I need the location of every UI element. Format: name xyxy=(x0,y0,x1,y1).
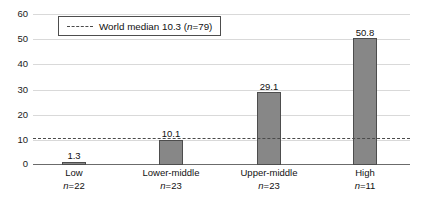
ytick-label-30: 30 xyxy=(17,85,28,95)
category-sample-size: n=11 xyxy=(355,180,376,193)
ytick-label-20: 20 xyxy=(17,110,28,120)
category-name: Lower-middle xyxy=(142,167,199,180)
category-label-low: Low n=22 xyxy=(63,167,84,193)
plot-area: 60 50 40 30 20 10 0 1.3 10.1 29.1 xyxy=(33,14,410,165)
bar-value-upper-middle: 29.1 xyxy=(260,82,279,92)
category-label-high: High n=11 xyxy=(355,167,376,193)
bar-lower-middle: 10.1 xyxy=(159,140,183,165)
legend-label: World median 10.3 (n=79) xyxy=(99,21,212,32)
bar-value-high: 50.8 xyxy=(356,28,375,38)
category-name: High xyxy=(355,167,376,180)
bar-chart: 60 50 40 30 20 10 0 1.3 10.1 29.1 xyxy=(0,0,421,201)
ytick-label-40: 40 xyxy=(17,60,28,70)
ytick-label-10: 10 xyxy=(17,135,28,145)
ytick-label-60: 60 xyxy=(17,9,28,19)
category-sample-size: n=23 xyxy=(142,180,199,193)
bar-low: 1.3 xyxy=(62,162,86,165)
bar-value-low: 1.3 xyxy=(67,151,80,161)
category-name: Low xyxy=(63,167,84,180)
gridline-60: 60 xyxy=(33,14,410,15)
legend: World median 10.3 (n=79) xyxy=(58,16,221,36)
category-axis: Low n=22 Lower-middle n=23 Upper-middle … xyxy=(33,167,410,201)
dashed-line-icon xyxy=(67,26,93,27)
category-label-lower-middle: Lower-middle n=23 xyxy=(142,167,199,193)
bar-upper-middle: 29.1 xyxy=(257,92,281,165)
category-label-upper-middle: Upper-middle n=23 xyxy=(240,167,297,193)
category-name: Upper-middle xyxy=(240,167,297,180)
bar-high: 50.8 xyxy=(353,38,377,165)
world-median-reference-line xyxy=(33,138,410,139)
ytick-label-50: 50 xyxy=(17,34,28,44)
category-sample-size: n=22 xyxy=(63,180,84,193)
ytick-label-0: 0 xyxy=(23,159,28,169)
category-sample-size: n=23 xyxy=(240,180,297,193)
